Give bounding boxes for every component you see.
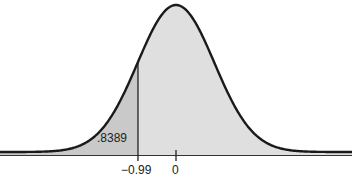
- zero-tick-label: 0: [172, 164, 179, 176]
- z-tick-label: −0.99: [121, 164, 151, 176]
- right-shaded-region: [138, 5, 352, 156]
- area-value-label: .8389: [97, 132, 127, 144]
